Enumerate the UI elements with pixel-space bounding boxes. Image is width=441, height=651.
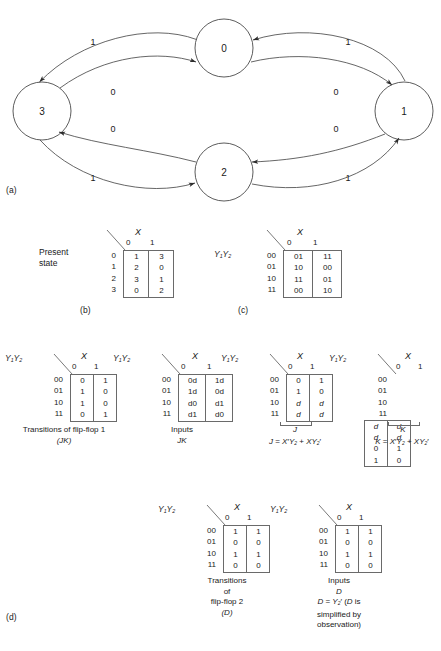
table-grid: 1 1 0 0 1 1 0 0	[223, 525, 270, 573]
caption-line: observation)	[279, 620, 399, 631]
table-row: 1 1	[336, 526, 381, 537]
cell: 1	[359, 526, 382, 537]
row-label: 01	[193, 536, 216, 547]
cell: 10	[284, 262, 313, 273]
col-header-0: 0	[396, 362, 400, 371]
cell: 0d	[206, 386, 233, 397]
table-row: 1 0	[287, 386, 332, 397]
x-axis-label: X	[297, 227, 303, 237]
cell: 1	[149, 274, 174, 285]
edge-3-to-2	[40, 140, 195, 189]
cell: 0	[247, 537, 270, 548]
state-node-2-label: 2	[221, 167, 227, 178]
row-label: 11	[40, 408, 63, 419]
table-row: 1d 0d	[179, 386, 232, 397]
table-present-state: Present state X 0 1 0 1 2 3 1 3 2 0 3 1	[94, 228, 174, 298]
table-row: 1 3	[124, 251, 173, 262]
cell: d	[310, 398, 333, 409]
col-header-0: 0	[72, 362, 76, 371]
table-row: 0 1	[71, 375, 116, 386]
table-state-assignment: Y1Y2 X 0 1 00 01 10 11 01 11 10 00 11 01	[252, 228, 342, 298]
edge-label-0-to-3: 1	[90, 37, 95, 47]
table-row: 1 1	[336, 549, 381, 560]
table-row: 0 1	[71, 409, 116, 420]
table-row: 00 10	[284, 285, 341, 296]
x-axis-label: X	[297, 351, 303, 361]
part-label-a: (a)	[6, 185, 17, 195]
row-label: 10	[305, 548, 328, 559]
table-row: d0 d1	[179, 398, 232, 409]
caption-line: of	[177, 587, 277, 598]
table-grid: 01 11 10 00 11 01 00 10	[283, 250, 342, 298]
row-label: 11	[256, 408, 279, 419]
table-row: 1 0	[71, 398, 116, 409]
caption-line: simplified by	[279, 610, 399, 621]
table-grid: 1 1 0 0 1 1 0 0	[335, 525, 382, 573]
cell: 2	[149, 285, 174, 296]
table-row: 01 11	[284, 251, 341, 262]
row-label: 10	[252, 273, 276, 284]
y1y2-label: Y1Y2	[5, 353, 22, 363]
cell: 0	[359, 537, 382, 548]
table-grid: 0 1 1 0 d d d d	[286, 374, 333, 422]
cell: 2	[124, 262, 149, 273]
cell: 0	[336, 560, 359, 571]
table-row: 1 1	[224, 549, 269, 560]
cell: 1	[71, 386, 94, 397]
row-label: 01	[148, 385, 171, 396]
x-axis-label: X	[81, 351, 87, 361]
row-label: 01	[40, 385, 63, 396]
table-j-map: Y1Y2 X 0 1 00 01 10 11 0 1 1 0 d d	[256, 352, 333, 422]
row-label: 10	[148, 397, 171, 408]
row-label: 10	[364, 397, 387, 408]
col-header-1: 1	[94, 362, 98, 371]
cell: d	[365, 421, 388, 432]
edge-0-to-3	[40, 33, 197, 82]
col-header-1: 1	[247, 513, 251, 522]
cell: 01	[313, 274, 342, 285]
row-label: 10	[40, 397, 63, 408]
cell: 0	[71, 409, 94, 420]
cell: 1	[365, 455, 388, 466]
row-label: 01	[364, 385, 387, 396]
table-row: 0 0	[224, 537, 269, 548]
cell: 0	[310, 386, 333, 397]
cell: 0	[224, 537, 247, 548]
part-label-c: (c)	[238, 305, 248, 315]
present-state-label-line1: Present	[39, 247, 68, 258]
col-header-1: 1	[150, 238, 154, 247]
row-label: 3	[94, 284, 116, 295]
k-equation: K = X′Y2 + XY2′	[334, 437, 441, 450]
cell: 0	[336, 537, 359, 548]
table-row: 10 00	[284, 262, 341, 273]
cell: d1	[179, 409, 206, 420]
caption-line: Inputs	[134, 425, 230, 436]
edge-label-3-to-0: 0	[110, 87, 115, 97]
y1y2-label: Y1Y2	[270, 504, 287, 514]
table-k-map: Y1Y2 X 0 1 00 01 10 11 d d d d 0 1	[364, 352, 441, 467]
col-header-0: 0	[225, 513, 229, 522]
table-row: 1 1	[224, 526, 269, 537]
cell: 1	[94, 375, 117, 386]
row-label: 10	[256, 397, 279, 408]
row-label: 2	[94, 273, 116, 284]
col-header-1: 1	[418, 362, 422, 371]
edge-1-to-0	[253, 33, 405, 81]
edge-label-1-to-0: 1	[345, 37, 350, 47]
table-grid: 0d 1d 1d 0d d0 d1 d1 d0	[178, 374, 233, 422]
cell: d0	[179, 398, 206, 409]
row-label: 11	[252, 284, 276, 295]
table-row: 0 0	[336, 560, 381, 571]
cell: 1	[310, 375, 333, 386]
caption-line: Transitions	[177, 576, 277, 587]
table-row: 0 1	[287, 375, 332, 386]
cell: 3	[149, 251, 174, 262]
col-header-1: 1	[310, 362, 314, 371]
x-axis-label: X	[346, 502, 352, 512]
x-axis-label: X	[192, 351, 198, 361]
cell: d	[287, 398, 310, 409]
caption-line: Transitions of flip-flop 1	[4, 425, 124, 436]
table-row: 1 0	[365, 455, 410, 466]
table-row: 0 0	[336, 537, 381, 548]
part-label-d: (d)	[6, 612, 17, 622]
